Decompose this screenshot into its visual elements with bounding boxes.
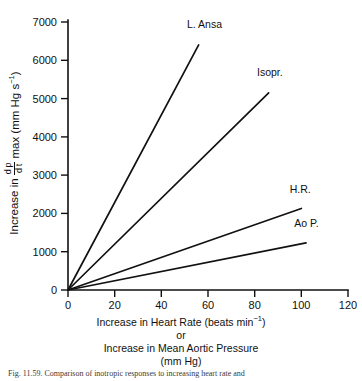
y-tick-label-3000: 3000 [33,169,57,181]
series-line-ao-p [68,243,306,290]
series-label-hr: H.R. [290,183,311,195]
x-tick-label-40: 40 [155,299,167,311]
x-tick-label-60: 60 [202,299,214,311]
x-axis-ticks [68,290,348,297]
x-tick-label-100: 100 [292,299,310,311]
y-tick-label-6000: 6000 [33,54,57,66]
y-tick-label-5000: 5000 [33,93,57,105]
y-tick-label-0: 0 [51,284,57,296]
x-tick-label-0: 0 [65,299,71,311]
series-label-l-ansa: L. Ansa [187,18,222,30]
y-tick-label-7000: 7000 [33,16,57,28]
y-tick-label-1000: 1000 [33,246,57,258]
x-tick-label-80: 80 [249,299,261,311]
y-tick-labels: 0 1000 2000 3000 4000 5000 6000 7000 [33,16,57,296]
x-tick-labels: 0 20 40 60 80 100 120 [65,299,357,311]
chart-plot-area: 0 1000 2000 3000 4000 5000 6000 7000 0 2… [0,0,362,381]
x-tick-label-120: 120 [339,299,357,311]
y-axis-ticks [61,22,68,290]
series-line-isopr [68,93,269,290]
series-label-isopr: Isopr. [257,66,283,78]
series-line-hr [68,208,301,290]
series-labels: L. Ansa Isopr. H.R. Ao P. [187,18,319,229]
y-tick-label-2000: 2000 [33,207,57,219]
series-label-ao-p: Ao P. [294,217,318,229]
series-line-l-ansa [68,45,199,290]
y-tick-label-4000: 4000 [33,131,57,143]
x-tick-label-20: 20 [109,299,121,311]
series-lines [68,45,306,290]
figure-panel: 0 1000 2000 3000 4000 5000 6000 7000 0 2… [0,0,362,381]
